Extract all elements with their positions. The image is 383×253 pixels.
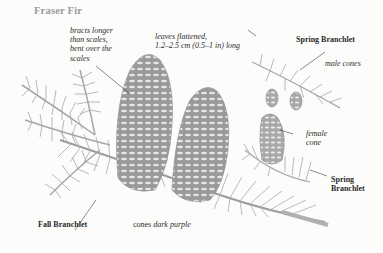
label-spring-branchlet-top: Spring Branchlet <box>296 35 355 44</box>
field-guide-page: Fraser Fir bracts longer than scales, be… <box>0 0 383 253</box>
cone-right <box>172 88 229 202</box>
cone-left <box>117 54 173 191</box>
label-fall-branchlet: Fall Branchlet <box>38 220 87 229</box>
label-line: than scales, <box>70 35 113 44</box>
male-cone-1 <box>266 89 278 107</box>
spring-branchlet-female <box>242 114 311 182</box>
label-leaves: leaves flattened, 1.2–2.5 cm (0.5–1 in) … <box>155 32 240 50</box>
label-spring-branchlet-bottom: Spring Branchlet <box>331 175 365 193</box>
label-line: Spring <box>331 175 365 184</box>
label-line: scales <box>70 54 113 63</box>
label-line: Branchlet <box>331 184 365 193</box>
label-female-cone: female cone <box>306 129 327 147</box>
label-bracts: bracts longer than scales, bent over the… <box>70 26 113 63</box>
label-line: 1.2–2.5 cm (0.5–1 in) long <box>155 41 240 50</box>
male-cone-2 <box>290 92 302 110</box>
label-male-cones: male cones <box>325 59 361 68</box>
label-cones-prefix: cones <box>133 220 151 229</box>
label-line: female <box>306 129 327 138</box>
label-line: bracts longer <box>70 26 113 35</box>
label-line: bent over the <box>70 44 113 53</box>
label-line: cone <box>306 138 327 147</box>
fall-branchlet <box>22 70 110 198</box>
label-line: leaves flattened, <box>155 32 240 41</box>
page-title: Fraser Fir <box>34 5 82 16</box>
label-cones-emph: dark purple <box>153 220 191 229</box>
label-cones-color: cones dark purple <box>133 220 191 229</box>
